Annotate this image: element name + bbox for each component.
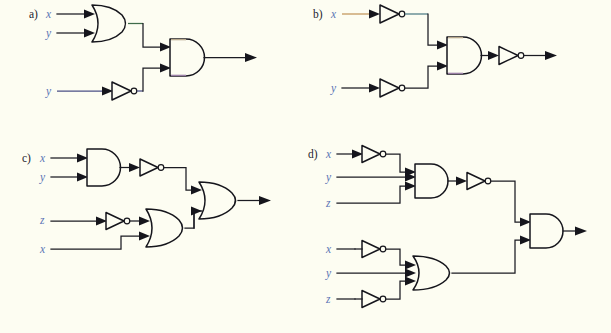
panel-label-c: c) [22, 152, 31, 165]
gate-b-and [447, 37, 482, 74]
input-label-b-y: y [330, 82, 337, 95]
gate-a-and [170, 39, 205, 76]
gate-d-and1 [415, 164, 448, 198]
panel-a: a) x y y [29, 5, 257, 100]
gate-b-not2 [380, 79, 405, 97]
input-label-d-y: y [325, 171, 332, 184]
output-arrow-c [259, 196, 271, 205]
gate-d-not1 [362, 146, 386, 163]
panel-b: b) x y [313, 5, 557, 97]
panel-label-b: b) [313, 8, 323, 21]
wire-d-not4-to-or1 [386, 281, 408, 299]
input-label-a-y2: y [45, 85, 52, 98]
gate-d-not2 [467, 173, 491, 190]
arrowhead-c-not1-in [129, 163, 140, 172]
arrowhead-d-or1-in2 [405, 269, 416, 278]
input-label-a-x: x [45, 8, 52, 20]
input-label-d-y2: y [325, 267, 332, 280]
arrowhead-d-not2-in [456, 177, 467, 186]
wire-d-not2-to-and2 [491, 181, 523, 222]
wire-d-not3-to-or1 [386, 249, 408, 265]
input-label-d-x: x [325, 148, 332, 160]
gate-c-or2 [199, 182, 236, 219]
gate-c-and [87, 149, 121, 186]
arrowhead-c-or2-in2 [191, 207, 202, 216]
gate-d-or1 [413, 256, 450, 290]
input-label-b-x: x [330, 8, 337, 20]
arrowhead-c-or2-in1 [191, 186, 202, 195]
wire-d-or1-to-and2 [452, 240, 523, 273]
gate-b-not3 [499, 47, 524, 65]
gate-b-not1 [380, 5, 405, 23]
gate-d-and2 [530, 214, 563, 248]
wire-d-z-to-and1 [337, 186, 408, 203]
gate-c-not1 [140, 159, 164, 176]
arrowhead-c-or1-in1 [139, 217, 150, 226]
input-label-d-x2: x [325, 243, 332, 255]
input-label-c-z: z [39, 214, 45, 226]
panel-label-d: d) [308, 148, 318, 161]
panel-d: d) x y z x y z [308, 146, 587, 308]
wire-b-not2-to-and [405, 66, 440, 88]
gate-d-not4 [362, 291, 386, 308]
circuit-canvas: a) x y y [0, 0, 611, 333]
arrowhead-a-x [84, 10, 95, 19]
output-arrow-d [575, 227, 587, 236]
arrowhead-b-not2-in [369, 84, 380, 93]
arrowhead-d-or1-in1 [405, 261, 416, 270]
arrowhead-b-not1-in [369, 10, 380, 19]
arrowhead-d-or1-in3 [405, 277, 416, 286]
output-arrow-b [545, 51, 557, 60]
input-label-c-x2: x [39, 243, 46, 255]
panel-c: c) x y z x [22, 149, 271, 255]
gate-a-not [112, 82, 137, 100]
input-label-d-z: z [325, 197, 331, 209]
arrowhead-b-not3-in [488, 51, 499, 60]
input-label-c-x: x [39, 152, 46, 164]
wire-d-not1-to-and1 [386, 154, 408, 172]
panel-label-a: a) [29, 8, 38, 21]
gate-d-not3 [362, 241, 386, 258]
input-label-a-y: y [45, 27, 52, 40]
wire-c-x2-to-or1 [51, 236, 142, 249]
wire-c-not1-to-or2 [164, 168, 194, 191]
output-arrow-a [245, 53, 257, 62]
gate-c-not2 [106, 213, 130, 230]
wire-b-not1-to-and [428, 14, 440, 45]
gate-c-or1 [146, 209, 183, 247]
gate-a-or [92, 5, 126, 42]
arrowhead-a-y [84, 29, 95, 38]
input-label-d-z2: z [325, 293, 331, 305]
logic-circuit-figure: a) x y y [0, 0, 611, 333]
arrowhead-c-or1-in2 [139, 232, 150, 241]
input-label-c-y: y [39, 171, 46, 184]
